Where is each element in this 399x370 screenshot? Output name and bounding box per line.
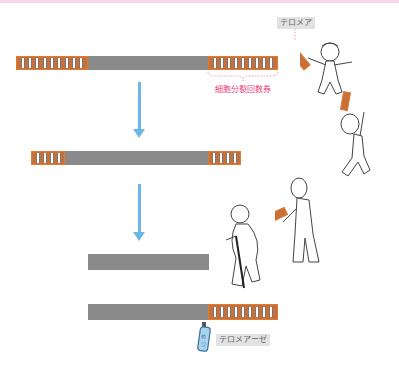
arrow-down-icon bbox=[138, 184, 141, 233]
chromosome-stage-2 bbox=[31, 151, 241, 165]
arrow-down-icon bbox=[138, 82, 141, 130]
top-border-strip bbox=[0, 0, 399, 3]
chromosome-stage-4 bbox=[88, 304, 278, 320]
svg-text:ワ: ワ bbox=[201, 341, 206, 347]
telomere-label-pointer bbox=[293, 29, 297, 41]
svg-text:め: め bbox=[201, 333, 206, 339]
telomere-right bbox=[208, 304, 278, 320]
telomere-right bbox=[208, 151, 241, 165]
telomerase-bottle-icon: め ワ bbox=[196, 322, 212, 354]
chromosome-stage-1 bbox=[16, 56, 278, 70]
telomere-left bbox=[16, 56, 88, 70]
telomere-left bbox=[31, 151, 65, 165]
cell-division-ticket-label: 細胞分裂回数券 bbox=[215, 85, 271, 95]
jumping-figure-icon bbox=[330, 90, 390, 185]
brace-icon bbox=[206, 71, 280, 83]
telomere-right bbox=[208, 56, 278, 70]
telomerase-label: テロメアーゼ bbox=[216, 334, 270, 346]
telomere-label: テロメア bbox=[277, 17, 315, 29]
chromosome-stage-3 bbox=[88, 254, 209, 270]
elderly-figure-icon bbox=[222, 200, 272, 290]
adult-figure-icon bbox=[275, 174, 335, 269]
